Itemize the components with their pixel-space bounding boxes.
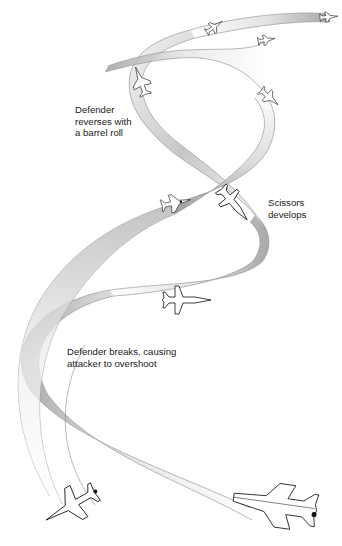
- defender-aircraft-start: [230, 477, 320, 532]
- annotation-scissors: Scissors develops: [268, 197, 306, 220]
- defender-aircraft-break: [162, 286, 211, 314]
- scissors-maneuver-diagram: [0, 0, 342, 546]
- annotation-barrel-roll: Defender reverses with a barrel roll: [75, 104, 132, 139]
- annotation-defender-break: Defender breaks, causing attacker to ove…: [67, 346, 176, 369]
